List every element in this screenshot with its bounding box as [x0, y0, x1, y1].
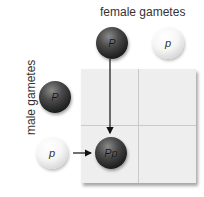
arrows — [0, 0, 204, 197]
